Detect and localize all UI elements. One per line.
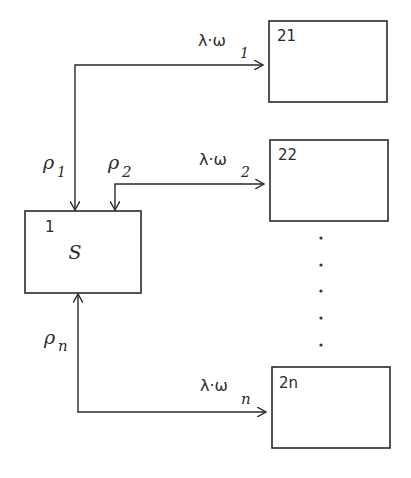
svg-text:ρ: ρ bbox=[43, 326, 56, 348]
label-rho-n: ρ n bbox=[43, 326, 68, 355]
label-lambda-omega-n: λ·ω n bbox=[200, 376, 251, 408]
node-21: 21 bbox=[269, 21, 387, 102]
diagram-canvas: 1 S 21 22 2n λ·ω 1 λ·ω 2 λ·ω n ρ 1 bbox=[0, 0, 411, 478]
svg-text:2: 2 bbox=[121, 163, 132, 181]
svg-text:λ·ω: λ·ω bbox=[200, 376, 228, 395]
node-1-label: S bbox=[68, 241, 81, 263]
label-lambda-omega-1: λ·ω 1 bbox=[198, 31, 249, 61]
node-21-number: 21 bbox=[277, 27, 296, 45]
svg-text:2: 2 bbox=[240, 164, 250, 180]
node-22-number: 22 bbox=[278, 146, 297, 164]
label-rho-1: ρ 1 bbox=[42, 151, 66, 180]
svg-text:ρ: ρ bbox=[107, 151, 120, 173]
node-22: 22 bbox=[270, 140, 388, 221]
label-rho-2: ρ 2 bbox=[107, 151, 132, 181]
ellipsis-dots bbox=[319, 236, 322, 346]
node-1-number: 1 bbox=[45, 218, 55, 236]
node-2n: 2n bbox=[272, 367, 390, 448]
svg-text:n: n bbox=[241, 390, 251, 408]
svg-text:n: n bbox=[58, 337, 68, 355]
label-lambda-omega-2: λ·ω 2 bbox=[199, 150, 250, 180]
connector-1-to-22 bbox=[115, 184, 264, 210]
svg-text:ρ: ρ bbox=[42, 151, 55, 173]
node-1-S: 1 S bbox=[25, 211, 141, 293]
svg-text:1: 1 bbox=[57, 164, 66, 180]
svg-text:λ·ω: λ·ω bbox=[199, 150, 227, 169]
node-2n-number: 2n bbox=[279, 374, 298, 392]
svg-text:1: 1 bbox=[240, 45, 249, 61]
connector-1-to-21 bbox=[75, 65, 263, 210]
connector-1-to-2n bbox=[78, 294, 266, 412]
svg-text:λ·ω: λ·ω bbox=[198, 31, 226, 50]
